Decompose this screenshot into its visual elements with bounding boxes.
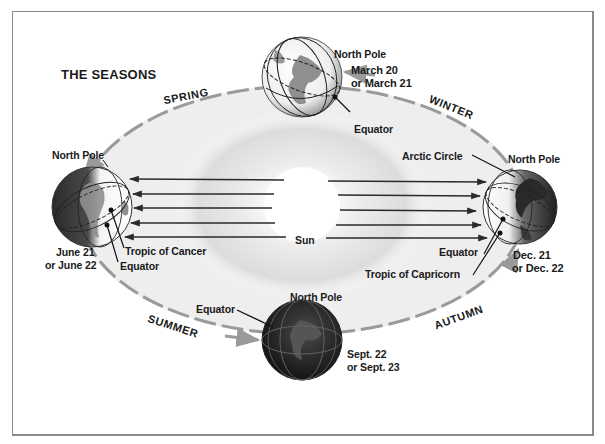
march-equator-label: Equator — [354, 123, 393, 135]
june-north-pole-label: North Pole — [52, 149, 104, 161]
march-north-pole-label: North Pole — [334, 48, 386, 60]
june-tropic-of-cancer-label: Tropic of Cancer — [125, 245, 206, 257]
september-date-line2: or Sept. 23 — [347, 361, 400, 373]
december-tropic-of-capricorn-label: Tropic of Capricorn — [365, 268, 460, 280]
sun-label: Sun — [295, 234, 315, 246]
diagram-title: THE SEASONS — [61, 69, 156, 81]
december-north-pole-label: North Pole — [508, 153, 560, 165]
september-north-pole-label: North Pole — [290, 291, 342, 303]
december-arctic-circle-label: Arctic Circle — [402, 150, 463, 162]
march-date-line2: or March 21 — [351, 77, 412, 89]
march-date-line1: March 20 — [351, 64, 398, 76]
june-date-line2: or June 22 — [45, 259, 97, 271]
september-date-line1: Sept. 22 — [347, 348, 386, 360]
september-equator-label: Equator — [196, 303, 235, 315]
june-date-line1: June 21 — [56, 246, 94, 258]
december-equator-label: Equator — [439, 246, 478, 258]
sun — [264, 167, 340, 243]
june-equator-label: Equator — [120, 260, 159, 272]
december-date-line2: or Dec. 22 — [512, 262, 564, 274]
orbit-arrow-summer-autumn — [225, 336, 258, 340]
december-date-line1: Dec. 21 — [513, 249, 551, 261]
